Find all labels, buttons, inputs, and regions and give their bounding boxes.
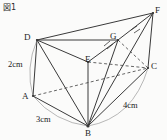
vertex-point-d bbox=[36, 39, 38, 41]
vertex-label-g: G bbox=[110, 32, 117, 41]
vertex-point-c bbox=[147, 67, 149, 69]
vertex-label-e: E bbox=[85, 55, 91, 64]
edge-C-B bbox=[88, 68, 148, 126]
edge-G-B bbox=[88, 40, 118, 126]
figure-canvas bbox=[0, 0, 167, 140]
hidden-edges-group bbox=[33, 40, 148, 96]
edge-E-G bbox=[88, 40, 118, 62]
dimension-label-edge-BC: 4cm bbox=[123, 101, 138, 110]
edge-D-E bbox=[37, 40, 88, 62]
vertex-label-d: D bbox=[24, 33, 31, 42]
tick-gf-2 bbox=[134, 29, 140, 33]
tick-eg-1 bbox=[104, 41, 110, 46]
vertex-point-a bbox=[32, 95, 34, 97]
vertex-point-g bbox=[117, 39, 119, 41]
dimension-label-edge-AB: 3cm bbox=[36, 115, 51, 124]
edge-E-C-hidden bbox=[88, 62, 148, 68]
edge-A-C-hidden bbox=[33, 68, 148, 96]
vertex-label-f: F bbox=[155, 6, 160, 15]
tick-eg-2 bbox=[107, 44, 113, 49]
vertex-label-a: A bbox=[22, 92, 29, 101]
vertex-label-c: C bbox=[151, 62, 157, 71]
edge-F-B bbox=[88, 13, 153, 126]
tick-gf-1 bbox=[131, 26, 137, 30]
dimension-label-edge-AD: 2cm bbox=[8, 60, 23, 69]
edge-G-C-hidden bbox=[118, 40, 148, 68]
vertex-point-f bbox=[152, 12, 154, 14]
vertex-label-b: B bbox=[85, 129, 91, 138]
geometry-figure: 図1 DFGECAB 2cm3cm4cm bbox=[0, 0, 167, 140]
